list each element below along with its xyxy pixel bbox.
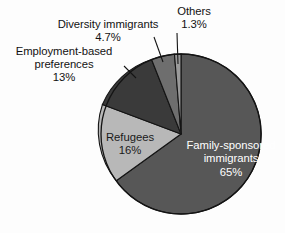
slice-label-line1: Refugees	[106, 131, 154, 143]
slice-label-family-sponsored-immigrants: Family-sponsoredimmigrants65%	[183, 139, 279, 179]
slice-label-line1: Employment-based	[16, 45, 113, 57]
slice-label-value: 1.3%	[158, 18, 230, 31]
slice-label-value: 65%	[183, 166, 279, 179]
slice-label-line1: Family-sponsored	[187, 139, 276, 151]
slice-label-line1: Diversity immigrants	[58, 18, 159, 30]
pie-chart-figure: Employment-basedpreferences13% Diversity…	[0, 0, 285, 233]
slice-label-employment-based-preferences: Employment-basedpreferences13%	[2, 45, 126, 85]
slice-label-diversity-immigrants: Diversity immigrants4.7%	[46, 18, 170, 44]
slice-label-value: 16%	[94, 144, 166, 157]
slice-label-line2: immigrants	[183, 152, 279, 165]
slice-label-line2: preferences	[2, 58, 126, 71]
slice-label-others: Others1.3%	[158, 5, 230, 31]
slice-label-value: 4.7%	[46, 31, 170, 44]
slice-label-refugees: Refugees16%	[94, 131, 166, 158]
slice-label-value: 13%	[2, 71, 126, 84]
slice-label-line1: Others	[177, 5, 211, 17]
